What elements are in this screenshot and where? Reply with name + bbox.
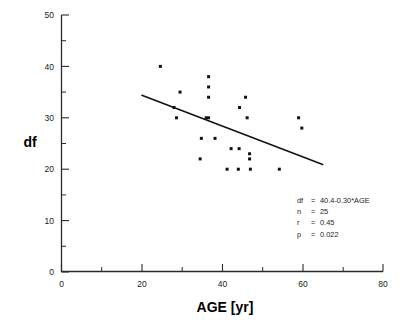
data-point <box>207 116 210 119</box>
y-tick-label-50: 50 <box>45 10 55 20</box>
data-point <box>179 91 182 94</box>
statistics-annotation: df=40.4-0.30*AGEn=25r=0.45p=0.022 <box>297 196 370 239</box>
y-tick-label-0: 0 <box>49 267 54 277</box>
x-tick-label-40: 40 <box>218 279 228 289</box>
data-point <box>238 147 241 150</box>
data-point <box>159 65 162 68</box>
data-point <box>214 137 217 140</box>
y-tick-label-30: 30 <box>45 113 55 123</box>
x-axis-ticks <box>62 264 384 272</box>
x-tick-label-0: 0 <box>59 279 64 289</box>
annotation-label-0: df <box>297 196 304 205</box>
data-point <box>244 96 247 99</box>
annotation-label-2: r <box>297 218 300 227</box>
annotation-value-2: 0.45 <box>320 218 334 227</box>
data-point <box>297 116 300 119</box>
data-point <box>238 106 241 109</box>
x-axis-tick-labels: 0 20 40 60 80 <box>59 279 388 289</box>
y-axis-tick-labels: 50 40 30 20 10 0 <box>45 10 55 277</box>
data-point <box>226 168 229 171</box>
data-point <box>207 75 210 78</box>
annotation-operator-3: = <box>311 230 315 239</box>
annotation-value-0: 40.4-0.30*AGE <box>320 196 370 205</box>
plot-canvas: 50 40 30 20 10 0 0 20 40 60 80 df <box>0 0 402 324</box>
data-point <box>246 116 249 119</box>
data-point <box>207 96 210 99</box>
data-point <box>207 85 210 88</box>
x-tick-label-60: 60 <box>298 279 308 289</box>
data-point <box>230 147 233 150</box>
data-point <box>173 106 176 109</box>
data-point <box>300 127 303 130</box>
annotation-value-1: 25 <box>320 207 328 216</box>
annotation-operator-2: = <box>311 218 315 227</box>
annotation-operator-0: = <box>311 196 315 205</box>
data-point <box>248 152 251 155</box>
y-axis-ticks <box>62 15 70 272</box>
data-point <box>199 157 202 160</box>
x-tick-label-20: 20 <box>137 279 147 289</box>
y-axis-title: df <box>23 134 37 150</box>
data-point <box>175 116 178 119</box>
data-point <box>200 137 203 140</box>
x-axis-title: AGE [yr] <box>197 299 254 315</box>
data-point <box>237 168 240 171</box>
data-point <box>278 168 281 171</box>
y-tick-label-20: 20 <box>45 164 55 174</box>
data-point <box>249 168 252 171</box>
scatter-plot-figure: 50 40 30 20 10 0 0 20 40 60 80 df <box>0 0 402 324</box>
y-tick-label-10: 10 <box>45 216 55 226</box>
data-points-group <box>159 65 303 171</box>
annotation-label-1: n <box>297 207 301 216</box>
regression-line <box>142 95 323 164</box>
y-tick-label-40: 40 <box>45 62 55 72</box>
annotation-operator-1: = <box>311 207 315 216</box>
annotation-value-3: 0.022 <box>320 230 339 239</box>
x-tick-label-80: 80 <box>378 279 388 289</box>
annotation-label-3: p <box>297 230 301 239</box>
data-point <box>248 157 251 160</box>
